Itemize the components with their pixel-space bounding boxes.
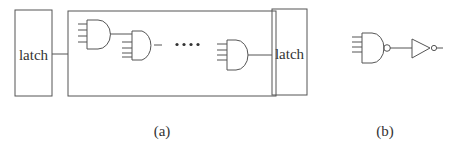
figure-canvas: latch latch (a) (b) bbox=[0, 0, 455, 155]
and-gate-1 bbox=[78, 20, 110, 49]
ellipsis-dots bbox=[175, 43, 199, 46]
caption-b: (b) bbox=[376, 123, 394, 140]
caption-a: (a) bbox=[154, 123, 171, 140]
inverter-gate bbox=[412, 39, 443, 58]
right-latch-label: latch bbox=[275, 46, 305, 62]
and-gate-3 bbox=[217, 40, 248, 70]
and-gate-2 bbox=[122, 31, 162, 60]
nand-gate bbox=[352, 33, 390, 63]
left-latch-label: latch bbox=[19, 47, 49, 63]
logic-block-box bbox=[68, 11, 276, 96]
